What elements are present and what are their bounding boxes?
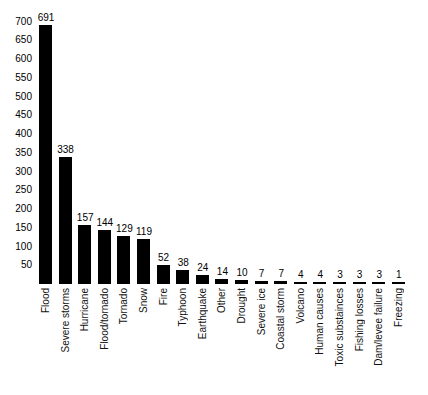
- bar-group: 10Drought: [232, 0, 252, 395]
- bar: [274, 281, 287, 284]
- bar: [176, 270, 189, 284]
- bar-value-label: 3: [376, 270, 382, 280]
- y-axis-tick-label: 600: [0, 54, 32, 64]
- bar: [196, 275, 209, 284]
- x-axis-category-label: Drought: [232, 288, 252, 324]
- bar: [235, 280, 248, 284]
- bar-value-label: 24: [197, 263, 208, 273]
- y-axis-tick-label: 650: [0, 35, 32, 45]
- x-axis-category-label: Fishing losses: [350, 288, 370, 351]
- x-axis-category-label: Other: [212, 288, 232, 313]
- x-axis-category-label: Human causes: [310, 288, 330, 355]
- bar: [313, 282, 326, 285]
- bar: [59, 157, 72, 284]
- bar-value-label: 3: [337, 270, 343, 280]
- bar: [215, 279, 228, 284]
- bar-value-label: 10: [236, 268, 247, 278]
- x-axis-category-label: Tornado: [114, 288, 134, 324]
- bar-value-label: 38: [178, 258, 189, 268]
- bar-group: 14Other: [212, 0, 232, 395]
- bar-group: 338Severe storms: [56, 0, 76, 395]
- bar-group: 691Flood: [36, 0, 56, 395]
- bar-group: 129Tornado: [114, 0, 134, 395]
- bar-group: 24Earthquake: [193, 0, 213, 395]
- x-axis-category-label: Snow: [134, 288, 154, 313]
- bar-chart: 5010015020025030035040045050055060065070…: [0, 0, 428, 395]
- x-axis-category-label: Coastal storm: [271, 288, 291, 350]
- bar-group: 144Flood/tornado: [95, 0, 115, 395]
- bar-group: 7Severe ice: [252, 0, 272, 395]
- bar-value-label: 3: [357, 270, 363, 280]
- bar-value-label: 144: [96, 218, 113, 228]
- bar-value-label: 129: [116, 224, 133, 234]
- y-axis-tick-label: 100: [0, 242, 32, 252]
- x-axis-category-label: Freezing: [389, 288, 409, 327]
- x-axis-category-label: Dam/levee failure: [369, 288, 389, 366]
- x-axis-category-label: Earthquake: [193, 288, 213, 339]
- bar-value-label: 691: [38, 13, 55, 23]
- bar-group: 157Hurricane: [75, 0, 95, 395]
- bar-group: 38Typhoon: [173, 0, 193, 395]
- x-axis-category-label: Typhoon: [173, 288, 193, 326]
- y-axis-tick-label: 450: [0, 110, 32, 120]
- x-axis-category-label: Flood/tornado: [95, 288, 115, 350]
- x-axis-category-label: Severe storms: [56, 288, 76, 352]
- bar-group: 1Freezing: [389, 0, 409, 395]
- bar: [157, 265, 170, 285]
- bar: [78, 225, 91, 284]
- x-axis-category-label: Hurricane: [75, 288, 95, 331]
- bar: [372, 282, 385, 285]
- y-axis-tick-label: 300: [0, 167, 32, 177]
- x-axis-category-label: Severe ice: [252, 288, 272, 335]
- y-axis-tick-label: 200: [0, 204, 32, 214]
- y-axis-tick-label: 350: [0, 148, 32, 158]
- y-axis-tick-label: 700: [0, 17, 32, 27]
- y-axis-tick-label: 400: [0, 129, 32, 139]
- bar-value-label: 7: [278, 269, 284, 279]
- bar-group: 119Snow: [134, 0, 154, 395]
- bar-group: 4Human causes: [310, 0, 330, 395]
- bar-group: 7Coastal storm: [271, 0, 291, 395]
- bar: [392, 282, 405, 285]
- bar-group: 3Dam/levee failure: [369, 0, 389, 395]
- x-axis-category-label: Fire: [154, 288, 174, 305]
- bar-value-label: 52: [158, 253, 169, 263]
- bar-value-label: 14: [217, 267, 228, 277]
- x-axis-category-label: Volcano: [291, 288, 311, 324]
- bar-group: 4Volcano: [291, 0, 311, 395]
- plot-area: 691Flood338Severe storms157Hurricane144F…: [34, 0, 428, 395]
- bar: [137, 239, 150, 284]
- x-axis-category-label: Toxic substainces: [330, 288, 350, 366]
- x-axis-category-label: Flood: [36, 288, 56, 313]
- bar-value-label: 157: [77, 213, 94, 223]
- bar: [255, 281, 268, 284]
- bar: [98, 230, 111, 284]
- bar: [117, 236, 130, 284]
- y-axis-tick-label: 500: [0, 92, 32, 102]
- bar-group: 3Toxic substainces: [330, 0, 350, 395]
- bar-value-label: 1: [396, 270, 402, 280]
- y-axis-tick-label: 250: [0, 185, 32, 195]
- bar: [333, 282, 346, 285]
- bar: [39, 25, 52, 284]
- y-axis-tick-label: 50: [0, 260, 32, 270]
- y-axis-tick-label: 150: [0, 223, 32, 233]
- bar-value-label: 4: [318, 270, 324, 280]
- bar-value-label: 4: [298, 270, 304, 280]
- bar: [353, 282, 366, 285]
- bar-group: 3Fishing losses: [350, 0, 370, 395]
- y-axis-tick-label: 550: [0, 73, 32, 83]
- bar-value-label: 7: [259, 269, 265, 279]
- bar-group: 52Fire: [154, 0, 174, 395]
- bar: [294, 282, 307, 285]
- bar-value-label: 119: [136, 227, 152, 237]
- bar-value-label: 338: [57, 145, 74, 155]
- y-axis: 5010015020025030035040045050055060065070…: [0, 0, 32, 395]
